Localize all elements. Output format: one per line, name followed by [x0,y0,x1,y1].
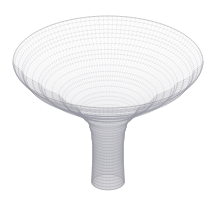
mesh-surface-figure: 3D triangular wireframe mesh of a flarin… [0,0,216,197]
wireframe-surface-plot [0,0,216,197]
